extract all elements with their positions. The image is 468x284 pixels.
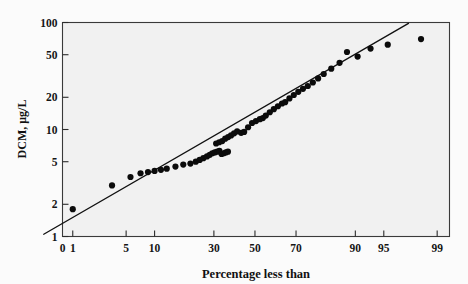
x-axis-title: Percentage less than [202,267,310,281]
data-point [164,166,170,172]
data-point [70,206,76,212]
y-tick-label: 20 [46,91,58,103]
data-point [187,161,193,167]
data-point [172,164,178,170]
plot-frame [63,23,450,237]
y-tick-label: 1 [52,231,58,243]
data-point [158,167,164,173]
data-point [145,169,151,175]
data-point [385,42,391,48]
x-tick-label: 70 [290,242,302,254]
data-point [310,79,316,85]
data-point [305,83,311,89]
data-point [180,161,186,167]
probability-plot-figure: 125102050100 01510305070909599 Percentag… [0,0,468,284]
x-tick-label: 30 [208,242,220,254]
data-point [367,46,373,52]
data-point [127,174,133,180]
x-tick-label: 5 [123,242,129,254]
y-tick-label: 10 [46,124,58,136]
data-point [336,60,342,66]
x-tick-label: 99 [431,242,443,254]
x-tick-label: 90 [350,242,362,254]
y-tick-label: 2 [52,198,58,210]
y-axis-title: DCM, μg/L [15,100,29,159]
data-point [328,66,334,72]
data-point [418,36,424,42]
data-point [137,170,143,176]
data-point [321,71,327,77]
y-tick-label: 5 [52,156,58,168]
x-tick-label: 10 [149,242,161,254]
data-point [344,49,350,55]
y-tick-label: 100 [40,17,58,29]
x-tick-label: 1 [70,242,76,254]
data-point [109,182,115,188]
x-tick-label: 0 [60,242,66,254]
x-tick-label: 95 [378,242,390,254]
x-tick-label: 50 [249,242,261,254]
data-point [315,75,321,81]
y-axis-ticks [63,23,69,237]
data-point [225,149,231,155]
y-tick-label: 50 [46,49,58,61]
data-point [151,168,157,174]
data-point [355,54,361,60]
chart-canvas: 125102050100 01510305070909599 Percentag… [0,0,468,284]
